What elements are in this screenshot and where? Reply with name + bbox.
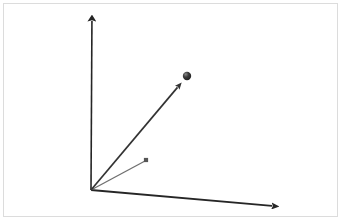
horizontal-axis-line [91, 190, 272, 206]
vector-diagram-plot [0, 0, 341, 220]
figure-canvas: 3D coordinate axes with vectors [0, 0, 341, 220]
secondary-vector-line [91, 161, 145, 190]
primary-vector-line [91, 87, 177, 190]
vertical-axis-line [91, 21, 92, 190]
primary-vector-endpoint-sphere [183, 72, 191, 80]
secondary-vector-endpoint-marker [144, 158, 148, 162]
